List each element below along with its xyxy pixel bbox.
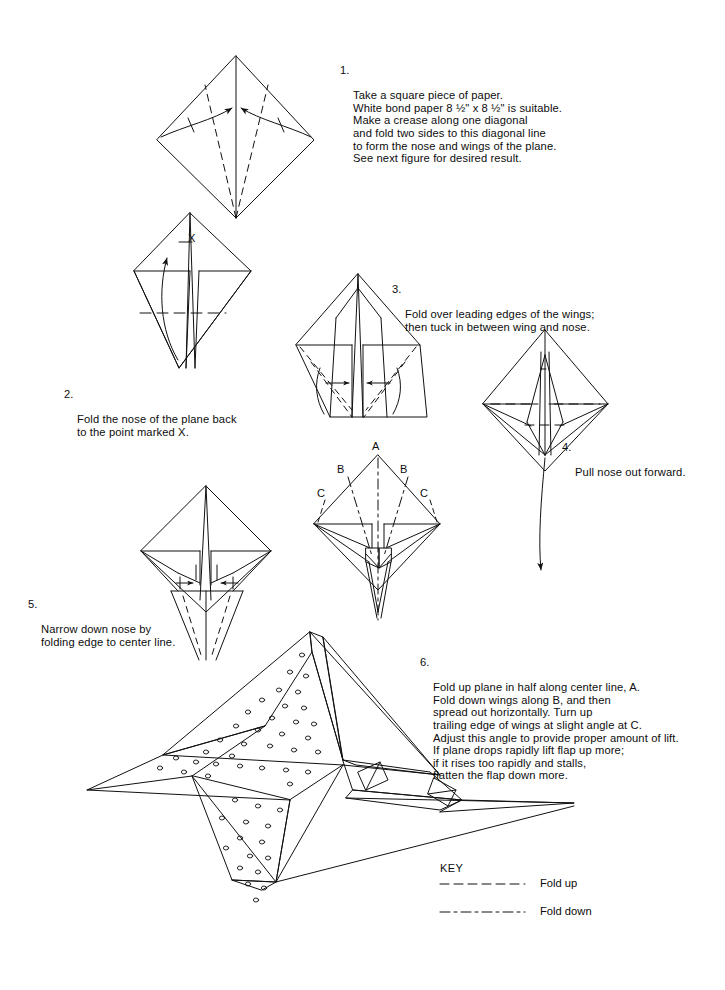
step-2-number: 2. — [64, 388, 74, 401]
step-1-text: Take a square piece of paper. White bond… — [340, 89, 562, 165]
step-2-instruction: 2.Fold the nose of the plane back to the… — [64, 388, 237, 464]
step-4-number: 4. — [562, 441, 572, 454]
step-3-instruction: 3.Fold over leading edges of the wings; … — [392, 283, 594, 359]
key-sample-lines — [440, 884, 525, 912]
label-x-fig2: X — [188, 232, 195, 244]
label-c-right-fig6: C — [420, 487, 428, 499]
instruction-sheet: 1.Take a square piece of paper. White bo… — [0, 0, 725, 990]
step-1-instruction: 1.Take a square piece of paper. White bo… — [340, 64, 562, 190]
step-6-text: Fold up plane in half along center line,… — [420, 681, 679, 782]
label-b-left-fig6: B — [337, 463, 344, 475]
label-a-fig6: A — [372, 440, 379, 452]
step-4-text: Pull nose out forward. — [562, 466, 686, 479]
figure-1-square-diagonal-fold — [157, 56, 314, 218]
step-5-text: Narrow down nose by folding edge to cent… — [28, 623, 175, 648]
step-4-instruction: 4.Pull nose out forward. — [562, 441, 686, 504]
step-6-number: 6. — [420, 656, 430, 669]
step-5-instruction: 5.Narrow down nose by folding edge to ce… — [28, 598, 175, 674]
step-2-text: Fold the nose of the plane back to the p… — [64, 413, 237, 438]
step-6-instruction: 6.Fold up plane in half along center lin… — [420, 656, 679, 807]
key-label-fold-up: Fold up — [540, 877, 577, 889]
label-c-left-fig6: C — [317, 487, 325, 499]
step-3-number: 3. — [392, 283, 402, 296]
label-b-right-fig6: B — [400, 463, 407, 475]
step-3-text: Fold over leading edges of the wings; th… — [392, 308, 594, 333]
step-5-number: 5. — [28, 598, 38, 611]
figure-6-abc-fold-lines — [314, 455, 440, 620]
key-title: KEY — [440, 862, 463, 874]
step-1-number: 1. — [340, 64, 350, 77]
key-label-fold-down: Fold down — [540, 905, 592, 917]
